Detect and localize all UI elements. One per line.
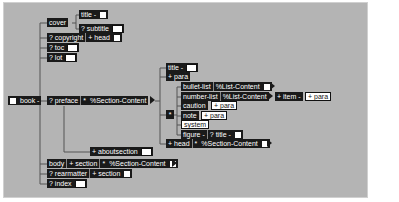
node-cover[interactable]: cover — [47, 18, 68, 27]
node-label: number-list — [181, 92, 220, 101]
node-label: %List-Content — [220, 92, 269, 101]
collapsed-icon[interactable] — [67, 44, 78, 52]
node-toc[interactable]: ? toc — [47, 43, 79, 52]
node-item-para[interactable]: + para — [305, 92, 331, 101]
node-label: bullet-list — [181, 82, 213, 91]
node-label: + head — [166, 139, 192, 148]
node-label: %Section-Content — [88, 96, 148, 105]
node-label: body — [47, 159, 66, 168]
node-label: * — [99, 159, 107, 168]
node-para[interactable]: + para — [166, 72, 190, 81]
node-caution[interactable]: caution — [181, 101, 208, 110]
node-label: + head — [85, 33, 112, 42]
node-subtitle[interactable]: ? subtitle — [79, 24, 124, 33]
node-label: %Section-Content — [199, 139, 259, 148]
node-head[interactable]: + head*%Section-Content — [166, 139, 270, 148]
collapsed-icon[interactable] — [112, 25, 123, 33]
expand-arrow-icon[interactable] — [268, 92, 273, 100]
node-figure[interactable]: figure -? title - — [181, 130, 243, 139]
node-label: %List-Content — [213, 82, 262, 91]
collapsed-icon[interactable] — [75, 180, 86, 188]
node-label: ? toc — [47, 43, 66, 52]
node-label: ? title - — [207, 130, 233, 139]
node-item[interactable]: + item - — [275, 92, 303, 101]
node-rearmatter[interactable]: ? rearmatter+ section — [47, 169, 132, 178]
collapsed-icon[interactable] — [186, 64, 197, 72]
node-copyright[interactable]: ? copyright+ head — [47, 33, 122, 42]
node-label: + para — [202, 112, 226, 119]
node-label: title - — [79, 10, 98, 19]
node-label: + section — [89, 169, 122, 178]
node-note-para[interactable]: + para — [201, 111, 227, 120]
node-label: ? preface — [47, 96, 80, 105]
node-aboutsection[interactable]: + aboutsection — [90, 147, 153, 156]
collapsed-icon[interactable] — [65, 54, 76, 62]
node-label: %Section-Content — [107, 159, 167, 168]
node-label: system — [182, 121, 208, 128]
node-note[interactable]: note — [181, 111, 199, 120]
node-label: * — [192, 139, 200, 148]
collapsed-icon[interactable] — [141, 148, 152, 156]
node-bullet-list[interactable]: bullet-list%List-Content — [181, 82, 272, 91]
node-label: * — [167, 110, 174, 119]
node-label: ? copyright — [47, 33, 85, 42]
choice-node[interactable]: * — [166, 110, 174, 119]
node-label: ? rearmatter — [47, 169, 89, 178]
node-section-title[interactable]: title - — [166, 63, 198, 72]
node-label: ? index — [47, 179, 74, 188]
expand-arrow-icon[interactable] — [270, 82, 275, 90]
expand-arrow-icon[interactable] — [150, 96, 155, 104]
node-label: + para — [212, 102, 236, 109]
node-cover-title[interactable]: title - — [79, 10, 108, 19]
node-label: ? lot — [47, 53, 64, 62]
node-label: + aboutsection — [90, 147, 140, 156]
node-book[interactable]: book - — [8, 96, 41, 105]
node-label: + section — [66, 159, 99, 168]
node-preface[interactable]: ? preface*%Section-Content — [47, 96, 148, 105]
expand-arrow-icon[interactable] — [267, 139, 272, 147]
node-system[interactable]: system — [181, 120, 209, 129]
node-label: cover — [47, 18, 68, 27]
node-label: title - — [166, 63, 185, 72]
node-index[interactable]: ? index — [47, 179, 87, 188]
node-body[interactable]: body+ section*%Section-Content — [47, 159, 178, 168]
node-label: book - — [18, 96, 41, 105]
expand-arrow-icon[interactable] — [172, 159, 177, 167]
node-label: * — [80, 96, 88, 105]
node-number-list[interactable]: number-list%List-Content — [181, 92, 269, 101]
node-lot[interactable]: ? lot — [47, 53, 77, 62]
node-caution-para[interactable]: + para — [211, 101, 237, 110]
node-label: figure - — [181, 130, 207, 139]
node-label: + item - — [275, 92, 303, 101]
node-label: note — [181, 111, 199, 120]
node-label: + para — [306, 93, 330, 100]
node-label: ? subtitle — [79, 24, 111, 33]
node-label: caution — [181, 101, 208, 110]
node-label: + para — [166, 72, 190, 81]
